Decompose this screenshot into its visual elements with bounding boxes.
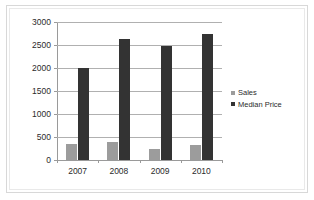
bar-sales-2009 bbox=[149, 149, 160, 161]
x-axis-label-2007: 2007 bbox=[57, 167, 98, 176]
bar-sales-2010 bbox=[190, 145, 201, 160]
y-axis-label-2000: 2000 bbox=[32, 64, 51, 73]
bar-chart: 050010001500200025003000 200720082009201… bbox=[0, 0, 314, 200]
bar-group-2007: 2007 bbox=[57, 22, 98, 160]
y-axis-label-0: 0 bbox=[46, 156, 51, 165]
x-axis-label-2010: 2010 bbox=[181, 167, 222, 176]
legend-label: Sales bbox=[238, 89, 257, 97]
y-axis-label-1000: 1000 bbox=[32, 110, 51, 119]
legend-item-sales[interactable]: Sales bbox=[231, 89, 305, 97]
y-axis-label-1500: 1500 bbox=[32, 87, 51, 96]
bar-median-price-2009 bbox=[161, 46, 172, 160]
y-axis-label-500: 500 bbox=[37, 133, 51, 142]
bar-median-price-2010 bbox=[202, 34, 213, 161]
legend-swatch-icon bbox=[231, 102, 235, 106]
bar-median-price-2007 bbox=[78, 68, 89, 160]
bar-group-2010: 2010 bbox=[181, 22, 222, 160]
legend-item-median-price[interactable]: Median Price bbox=[231, 101, 305, 109]
bar-median-price-2008 bbox=[119, 39, 130, 160]
bar-group-2008: 2008 bbox=[98, 22, 139, 160]
chart-legend: SalesMedian Price bbox=[231, 89, 305, 112]
y-axis-label-3000: 3000 bbox=[32, 18, 51, 27]
legend-swatch-icon bbox=[231, 91, 235, 95]
y-axis-label-2500: 2500 bbox=[32, 41, 51, 50]
plot-area: 050010001500200025003000 200720082009201… bbox=[57, 22, 222, 160]
x-axis-label-2009: 2009 bbox=[140, 167, 181, 176]
bar-sales-2008 bbox=[107, 142, 118, 160]
bar-group-2009: 2009 bbox=[140, 22, 181, 160]
x-axis-label-2008: 2008 bbox=[98, 167, 139, 176]
x-tick-2008 bbox=[140, 160, 141, 163]
x-tick-2007 bbox=[98, 160, 99, 163]
x-tick-2010 bbox=[222, 160, 223, 163]
x-tick-origin bbox=[57, 160, 58, 163]
x-tick-2009 bbox=[181, 160, 182, 163]
legend-label: Median Price bbox=[238, 101, 282, 109]
bar-sales-2007 bbox=[66, 144, 77, 160]
